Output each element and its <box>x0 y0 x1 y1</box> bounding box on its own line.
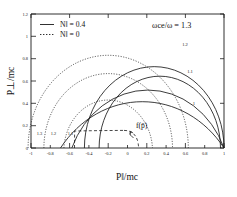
y-tick-label: 1 <box>26 34 28 39</box>
parameter-annotation-label: ωce/ω = 1.3 <box>152 21 191 30</box>
curve-label-left-1.2: 1.2 <box>51 131 57 136</box>
curve-label-1.2: 1.2 <box>182 42 188 47</box>
y-tick-label: 0.2 <box>23 123 29 128</box>
x-tick-label: 0.6 <box>183 151 189 156</box>
x-tick-label: -1 <box>29 151 33 156</box>
y-tick-label: 1.2 <box>23 12 29 17</box>
x-tick-label: 0.2 <box>144 151 150 156</box>
x-tick-label: -0.2 <box>105 151 112 156</box>
legend-label-dotted: N‖ = 0 <box>60 30 80 39</box>
x-tick-label: -0.4 <box>85 151 93 156</box>
legend-label-solid: N‖ = 0.4 <box>60 20 85 29</box>
x-tick-label: -0.6 <box>66 151 74 156</box>
curve-label-1.1: 1.1 <box>187 69 193 74</box>
x-tick-label: 1 <box>223 151 225 156</box>
parameter-annotation: ωce/ω = 1.3 <box>152 21 191 30</box>
y-axis-label: P⊥/mc <box>6 67 16 96</box>
left-curve-labels: 1.3 1.2 1.1 <box>37 131 74 136</box>
y-tick-label: 0.6 <box>23 79 29 84</box>
curve-label-left-1.1: 1.1 <box>68 131 74 136</box>
curve-label-left-1.3: 1.3 <box>37 131 43 136</box>
figure-root: -1 -0.8 -0.6 -0.4 -0.2 0 0.2 0.4 0.6 0.8… <box>0 0 237 197</box>
distribution-function-label: f(p̄) <box>136 121 148 130</box>
y-tick-label: 0.8 <box>23 56 29 61</box>
resonance-curve-plot: -1 -0.8 -0.6 -0.4 -0.2 0 0.2 0.4 0.6 0.8… <box>0 0 237 197</box>
x-tick-label: -0.8 <box>47 151 55 156</box>
y-tick-label: 0.4 <box>23 101 29 106</box>
x-axis-label: P‖/mc <box>116 172 138 182</box>
plot-background <box>0 0 237 197</box>
x-tick-label: 0.4 <box>163 151 169 156</box>
x-tick-label: 0.8 <box>202 151 208 156</box>
